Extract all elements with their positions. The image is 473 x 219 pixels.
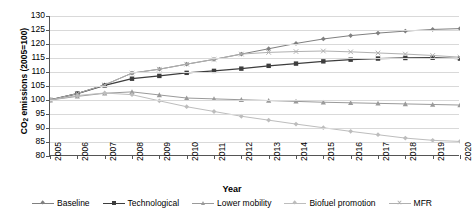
x-axis-tick: [323, 155, 324, 159]
x-axis-tick: [77, 155, 78, 159]
y-axis-tick: [46, 30, 50, 31]
x-axis-tick: [269, 155, 270, 159]
y-axis-tick: [46, 142, 50, 143]
series-technological: [50, 56, 460, 103]
y-axis-tick-label: 115: [9, 52, 45, 62]
series-lower-mobility: [50, 89, 460, 107]
x-axis-tick-label: 2014: [299, 142, 309, 161]
x-axis-tick: [159, 155, 160, 159]
y-axis-tick-label: 120: [9, 38, 45, 48]
legend-item-lower-mobility[interactable]: Lower mobility: [192, 198, 271, 208]
x-axis-title: Year: [0, 184, 464, 194]
x-axis-tick-label: 2007: [108, 142, 118, 161]
y-axis-title-subscript: 2: [22, 118, 29, 122]
y-axis-tick-label: 110: [9, 66, 45, 76]
data-point-marker: [376, 31, 381, 36]
x-axis-tick: [241, 155, 242, 159]
x-axis-tick: [433, 155, 434, 159]
data-point-marker: [266, 64, 270, 68]
x-axis-tick-label: 2005: [53, 142, 63, 161]
data-point-marker: [239, 66, 243, 70]
x-axis-tick-label: 2009: [162, 142, 172, 161]
x-axis-tick: [214, 155, 215, 159]
legend-swatch-icon: [103, 199, 125, 207]
x-axis-tick-label: 2006: [80, 142, 90, 161]
y-axis-tick-label: 95: [9, 108, 45, 118]
legend-swatch-icon: [192, 199, 214, 207]
data-point-marker: [294, 122, 299, 127]
x-axis-tick-label: 2008: [135, 142, 145, 161]
legend-label: Technological: [128, 198, 180, 208]
x-axis-tick: [405, 155, 406, 159]
legend-item-technological[interactable]: Technological: [103, 198, 180, 208]
legend-swatch-icon: [389, 199, 411, 207]
x-axis-tick-label: 2016: [354, 142, 364, 161]
data-point-marker: [130, 77, 134, 81]
x-axis-tick: [378, 155, 379, 159]
gridline: [50, 30, 459, 31]
x-axis-tick-label: 2010: [190, 142, 200, 161]
legend-label: Biofuel promotion: [309, 198, 375, 208]
data-point-marker: [266, 118, 271, 123]
gridline: [50, 128, 459, 129]
y-axis-tick: [46, 44, 50, 45]
y-axis-tick-label: 130: [9, 10, 45, 20]
x-axis-tick-label: 2018: [408, 142, 418, 161]
x-axis-tick-label: 2012: [244, 142, 254, 161]
y-axis-tick: [46, 128, 50, 129]
y-axis-tick-label: 90: [9, 122, 45, 132]
x-axis-tick-label: 2013: [272, 142, 282, 161]
y-axis-tick: [46, 100, 50, 101]
gridline: [50, 72, 459, 73]
y-axis-tick: [46, 16, 50, 17]
y-axis-tick: [46, 58, 50, 59]
y-axis-tick-label: 105: [9, 80, 45, 90]
series-mfr: [50, 49, 460, 103]
y-axis-tick: [46, 114, 50, 115]
x-axis-tick: [187, 155, 188, 159]
y-axis-tick: [46, 86, 50, 87]
series-line: [50, 29, 460, 100]
data-point-marker: [294, 61, 298, 65]
x-axis-tick-label: 2019: [436, 142, 446, 161]
legend-item-mfr[interactable]: MFR: [389, 198, 432, 208]
data-point-marker: [376, 132, 381, 137]
gridline: [50, 100, 459, 101]
gridline: [50, 44, 459, 45]
plot-area: [49, 16, 459, 156]
data-point-marker: [184, 104, 189, 109]
y-axis-tick-label: 80: [9, 150, 45, 160]
legend-item-biofuel-promotion[interactable]: Biofuel promotion: [284, 198, 375, 208]
x-axis-tick: [105, 155, 106, 159]
legend-label: Lower mobility: [217, 198, 271, 208]
series-biofuel-promotion: [50, 91, 460, 144]
gridline: [50, 58, 459, 59]
data-point-marker: [403, 136, 408, 141]
data-point-marker: [321, 37, 326, 42]
x-axis-tick-label: 2020: [463, 142, 473, 161]
x-axis-tick: [296, 155, 297, 159]
x-axis-tick-label: 2015: [326, 142, 336, 161]
gridline: [50, 16, 459, 17]
data-point-marker: [348, 33, 353, 38]
legend-item-baseline[interactable]: Baseline: [32, 198, 90, 208]
gridline: [50, 86, 459, 87]
legend-label: Baseline: [57, 198, 90, 208]
chart-legend: BaselineTechnologicalLower mobilityBiofu…: [0, 198, 464, 208]
y-axis-tick-label: 100: [9, 94, 45, 104]
series-baseline: [50, 26, 460, 102]
x-axis-tick: [132, 155, 133, 159]
data-point-marker: [321, 59, 325, 63]
x-axis-tick-label: 2011: [217, 143, 227, 161]
data-point-marker: [348, 129, 353, 134]
legend-swatch-icon: [32, 199, 54, 207]
y-axis-tick-label: 125: [9, 24, 45, 34]
legend-label: MFR: [414, 198, 432, 208]
gridline: [50, 114, 459, 115]
x-axis-tick-label: 2017: [381, 142, 391, 161]
legend-swatch-icon: [284, 199, 306, 207]
x-axis-tick: [460, 155, 461, 159]
y-axis-tick: [46, 72, 50, 73]
x-axis-tick: [351, 155, 352, 159]
